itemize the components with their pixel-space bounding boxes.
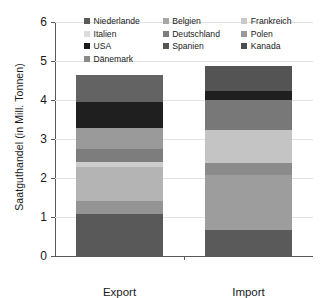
legend-item[interactable]: Niederlande xyxy=(84,15,163,28)
y-axis-tick xyxy=(51,61,55,62)
bar-segment[interactable] xyxy=(205,91,292,100)
legend-swatch-icon xyxy=(84,56,90,62)
bar-segment[interactable] xyxy=(205,130,292,163)
legend-item[interactable]: Spanien xyxy=(163,40,242,53)
legend-item-label: Deutschland xyxy=(172,30,220,39)
legend-swatch-icon xyxy=(241,31,247,37)
legend-swatch-icon xyxy=(241,43,247,49)
legend-item-label: Niederlande xyxy=(94,17,140,26)
legend-swatch-icon xyxy=(163,18,169,24)
bar-segment[interactable] xyxy=(76,214,163,256)
legend-item-label: Spanien xyxy=(172,42,204,51)
y-axis-tick-label: 4 xyxy=(40,93,47,107)
bar-segment[interactable] xyxy=(205,175,292,230)
y-axis-tick xyxy=(51,22,55,23)
y-axis-tick-label: 1 xyxy=(40,210,47,224)
bar-segment[interactable] xyxy=(76,149,163,163)
legend-item-label: USA xyxy=(94,42,112,51)
y-axis-tick-label: 2 xyxy=(40,171,47,185)
bar-segment[interactable] xyxy=(76,162,163,167)
x-axis-tick-label: Export xyxy=(103,286,136,298)
bar-segment[interactable] xyxy=(205,66,292,92)
legend-item[interactable]: Frankreich xyxy=(241,15,320,28)
legend-swatch-icon xyxy=(84,18,90,24)
x-axis-tick xyxy=(184,256,185,260)
y-axis-tick xyxy=(51,256,55,257)
bar-segment[interactable] xyxy=(76,167,163,201)
legend-item[interactable]: Kanada xyxy=(241,40,320,53)
y-axis-tick-label: 3 xyxy=(40,132,47,146)
legend-item[interactable]: Italien xyxy=(84,28,163,41)
y-axis-tick xyxy=(51,100,55,101)
y-axis-tick-label: 6 xyxy=(40,15,47,29)
legend-swatch-icon xyxy=(163,31,169,37)
legend-item[interactable]: Deutschland xyxy=(163,28,242,41)
x-axis-tick-label: Import xyxy=(232,286,265,298)
legend-swatch-icon xyxy=(84,31,90,37)
y-axis-tick xyxy=(51,178,55,179)
y-axis-title: Saatguthandel (in Mill. Tonnen) xyxy=(13,22,25,252)
legend-swatch-icon xyxy=(163,43,169,49)
y-axis-tick-label: 0 xyxy=(40,249,47,263)
legend-item-label: Dänemark xyxy=(94,55,134,64)
y-axis-tick xyxy=(51,139,55,140)
legend-swatch-icon xyxy=(241,18,247,24)
legend-item-label: Frankreich xyxy=(251,17,292,26)
bar-export[interactable] xyxy=(76,75,163,256)
legend-swatch-icon xyxy=(84,43,90,49)
legend-item[interactable]: Belgien xyxy=(163,15,242,28)
legend-item[interactable]: Dänemark xyxy=(84,53,163,66)
bar-segment[interactable] xyxy=(205,230,292,256)
bar-segment[interactable] xyxy=(205,100,292,130)
bar-segment[interactable] xyxy=(205,163,292,175)
y-axis-tick-label: 5 xyxy=(40,54,47,68)
legend-item-label: Kanada xyxy=(251,42,281,51)
chart-legend: NiederlandeBelgienFrankreichItalienDeuts… xyxy=(84,15,320,65)
bar-segment[interactable] xyxy=(76,128,163,148)
legend-item[interactable]: USA xyxy=(84,40,163,53)
bar-segment[interactable] xyxy=(76,201,163,213)
bar-segment[interactable] xyxy=(76,75,163,102)
legend-item-label: Belgien xyxy=(172,17,201,26)
y-axis-tick xyxy=(51,217,55,218)
bar-segment[interactable] xyxy=(76,102,163,129)
legend-item-label: Polen xyxy=(251,30,273,39)
legend-item[interactable]: Polen xyxy=(241,28,320,41)
legend-item-label: Italien xyxy=(94,30,117,39)
bar-import[interactable] xyxy=(205,66,292,256)
